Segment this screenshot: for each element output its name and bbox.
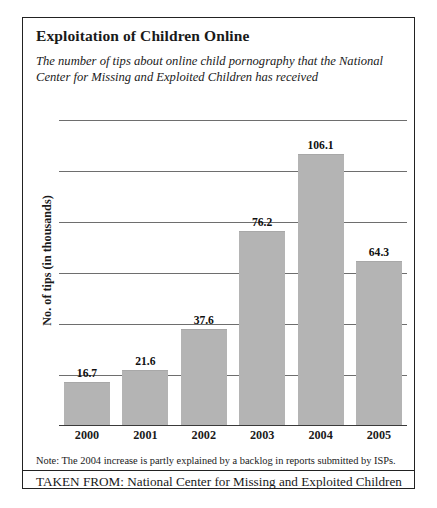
y-axis-label: No. of tips (in thousands) [40, 166, 55, 356]
chart-note: Note: The 2004 increase is partly explai… [36, 454, 402, 467]
footer-divider [23, 470, 414, 471]
x-axis-tick-label: 2000 [64, 428, 110, 443]
page-title: Exploitation of Children Online [36, 27, 401, 46]
plot-region: 16.721.637.676.2106.164.3 [59, 120, 407, 426]
x-axis-line [59, 425, 407, 427]
bar-value-label: 37.6 [169, 314, 239, 327]
bar-value-label: 76.2 [227, 216, 297, 229]
figure-subtitle: The number of tips about online child po… [36, 53, 401, 87]
bar-slot: 76.2 [239, 120, 285, 426]
x-axis-tick-label: 2003 [239, 428, 285, 443]
bar-value-label: 21.6 [110, 355, 180, 368]
bar-series: 16.721.637.676.2106.164.3 [59, 120, 407, 426]
bar-value-label: 16.7 [52, 367, 122, 380]
bar-value-label: 106.1 [286, 139, 356, 152]
bar [64, 382, 110, 426]
bar [239, 231, 285, 426]
chart-area: No. of tips (in thousands) 16.721.637.67… [23, 114, 413, 436]
x-axis-tick-label: 2004 [298, 428, 344, 443]
bar [122, 370, 168, 426]
x-axis-tick-label: 2002 [181, 428, 227, 443]
x-axis-tick-label: 2001 [122, 428, 168, 443]
bar-slot: 16.7 [64, 120, 110, 426]
figure-header: Exploitation of Children Online The numb… [23, 18, 414, 86]
x-axis-tick-label: 2005 [356, 428, 402, 443]
bar-slot: 37.6 [181, 120, 227, 426]
bar [298, 154, 344, 426]
bar-value-label: 64.3 [344, 246, 414, 259]
source-line: TAKEN FROM: National Center for Missing … [36, 474, 402, 491]
bar-slot: 64.3 [356, 120, 402, 426]
bar [181, 329, 227, 426]
x-axis-tick-labels: 200020012002200320042005 [59, 428, 407, 443]
bar [356, 261, 402, 426]
bar-slot: 106.1 [298, 120, 344, 426]
bar-slot: 21.6 [122, 120, 168, 426]
figure-panel: Exploitation of Children Online The numb… [22, 17, 415, 489]
